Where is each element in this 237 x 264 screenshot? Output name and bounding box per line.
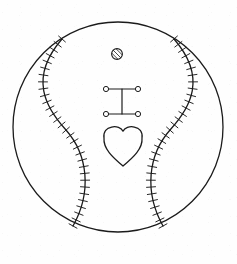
artwork-canvas — [0, 0, 237, 264]
node-top-left — [103, 86, 108, 91]
node-bottom-right — [135, 111, 140, 116]
background — [0, 0, 237, 264]
baseball-drawing — [0, 0, 237, 264]
node-top-right — [135, 86, 140, 91]
seam-stitch — [80, 187, 89, 188]
node-bottom-left — [103, 111, 108, 116]
seam-stitch — [147, 187, 156, 188]
